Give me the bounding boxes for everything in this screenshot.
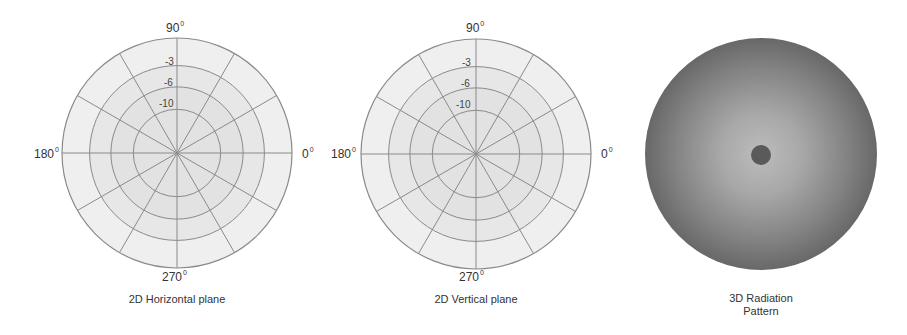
angle-label-0: 00 <box>302 148 314 160</box>
polar-chart-horizontal <box>62 38 292 268</box>
ring-label-minus10: -10 <box>456 100 470 110</box>
ring-label-minus6: -6 <box>461 79 470 89</box>
angle-label-90: 900 <box>466 22 484 34</box>
angle-label-270: 2700 <box>459 271 484 283</box>
angle-label-0: 00 <box>601 148 613 160</box>
angle-label-270: 2700 <box>162 271 187 283</box>
caption-line-2: Pattern <box>701 305 821 318</box>
caption-3d-radiation-pattern: 3D Radiation Pattern <box>701 292 821 318</box>
polar-chart-vertical <box>361 39 591 269</box>
caption-horizontal-plane: 2D Horizontal plane <box>117 293 237 306</box>
sphere-center-dot <box>751 145 771 165</box>
ring-label-minus3: -3 <box>462 58 471 68</box>
figure: 900 1800 00 2700 -3 -6 -10 2D Horizontal… <box>0 0 907 335</box>
ring-label-minus10: -10 <box>159 99 173 109</box>
angle-label-90: 900 <box>166 22 184 34</box>
radiation-3d-sphere <box>645 38 877 270</box>
angle-label-180: 1800 <box>331 148 356 160</box>
caption-line-1: 3D Radiation <box>701 292 821 305</box>
ring-label-minus6: -6 <box>164 78 173 88</box>
ring-label-minus3: -3 <box>165 57 174 67</box>
angle-label-180: 1800 <box>34 148 59 160</box>
caption-vertical-plane: 2D Vertical plane <box>416 293 536 306</box>
figure-canvas <box>0 0 907 335</box>
